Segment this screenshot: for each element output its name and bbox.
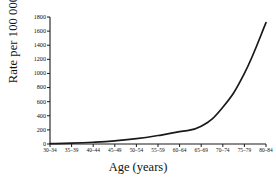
chart-figure: Rate per 100 000 02004006008001000120014… [0, 0, 276, 184]
data-series-line [50, 23, 266, 144]
y-tick-label: 800 [22, 84, 46, 90]
y-axis-tick-labels: 020040060080010001200140016001800 [22, 17, 46, 144]
axis-spines [50, 17, 266, 144]
x-tick-label: 65–69 [194, 147, 207, 153]
chart-svg [50, 17, 266, 144]
y-tick-label: 1400 [22, 42, 46, 48]
x-tick-label: 60–64 [173, 147, 186, 153]
x-tick-label: 35–39 [65, 147, 78, 153]
x-tick-label: 50–54 [130, 147, 143, 153]
y-tick-label: 1000 [22, 70, 46, 76]
plot-area [50, 17, 266, 144]
x-axis-title: Age (years) [0, 160, 276, 175]
y-tick-label: 1800 [22, 14, 46, 20]
y-tick-label: 600 [22, 99, 46, 105]
y-tick-label: 200 [22, 127, 46, 133]
x-tick-label: 70–74 [216, 147, 229, 153]
y-tick-label: 1600 [22, 28, 46, 34]
x-tick-label: 75–79 [238, 147, 251, 153]
x-tick-label: 30–34 [43, 147, 56, 153]
y-tick-label: 1200 [22, 56, 46, 62]
x-tick-label: 55–59 [151, 147, 164, 153]
y-axis-title: Rate per 100 000 [6, 0, 21, 105]
x-tick-label: 40–44 [86, 147, 99, 153]
x-tick-label: 45–49 [108, 147, 121, 153]
x-axis-tick-labels: 30–3435–3940–4445–4950–5455–5960–6465–69… [50, 147, 266, 157]
x-tick-label: 80–84 [259, 147, 272, 153]
y-tick-label: 400 [22, 113, 46, 119]
